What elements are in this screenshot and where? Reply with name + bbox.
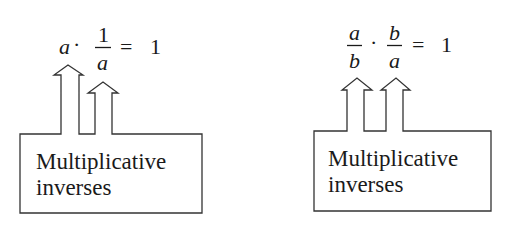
left-label-line1: Multiplicative [36,149,166,175]
left-label: Multiplicative inverses [36,149,166,201]
result: 1 [150,36,161,58]
fraction1-denominator: b [349,50,360,72]
fraction2-denominator: a [389,50,400,72]
multiply-dot: · [370,32,377,54]
fraction-numerator: 1 [98,24,109,46]
multiply-dot: · [73,34,80,56]
equals-sign: = [412,34,424,56]
right-label: Multiplicative inverses [328,146,458,198]
fraction-denominator: a [97,52,108,74]
fraction2-numerator: b [389,22,400,44]
variable-a: a [59,36,70,58]
equals-sign: = [120,36,132,58]
left-label-line2: inverses [36,175,166,201]
fraction1-numerator: a [349,22,360,44]
result: 1 [441,34,452,56]
right-label-line2: inverses [328,172,458,198]
right-label-line1: Multiplicative [328,146,458,172]
